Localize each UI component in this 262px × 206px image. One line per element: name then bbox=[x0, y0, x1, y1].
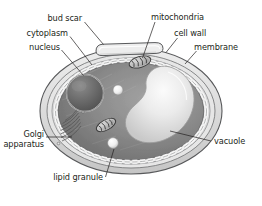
label-golgi-line2: apparatus bbox=[3, 139, 44, 149]
leader-bud-scar bbox=[85, 22, 104, 45]
lipid-granule-upper bbox=[113, 85, 123, 95]
label-lipid-granule: lipid granule bbox=[53, 172, 103, 182]
label-cell-wall: cell wall bbox=[174, 28, 206, 38]
diagram-canvas: bud scar cytoplasm nucleus mitochondria … bbox=[0, 0, 262, 206]
cell-body bbox=[40, 43, 222, 174]
label-mitochondria: mitochondria bbox=[151, 12, 204, 22]
label-membrane: membrane bbox=[194, 42, 238, 52]
label-bud-scar: bud scar bbox=[47, 13, 82, 23]
label-cytoplasm: cytoplasm bbox=[27, 28, 69, 38]
label-nucleus: nucleus bbox=[29, 42, 60, 52]
nucleus bbox=[67, 75, 104, 112]
leader-cell-wall bbox=[166, 38, 178, 53]
label-vacuole: vacuole bbox=[214, 136, 245, 146]
label-golgi-line1: Golgi bbox=[23, 129, 44, 139]
yeast-cell-diagram: bud scar cytoplasm nucleus mitochondria … bbox=[0, 0, 262, 206]
bud-scar bbox=[96, 43, 163, 56]
lipid-granule-lower bbox=[108, 138, 119, 149]
leader-membrane bbox=[185, 51, 197, 64]
